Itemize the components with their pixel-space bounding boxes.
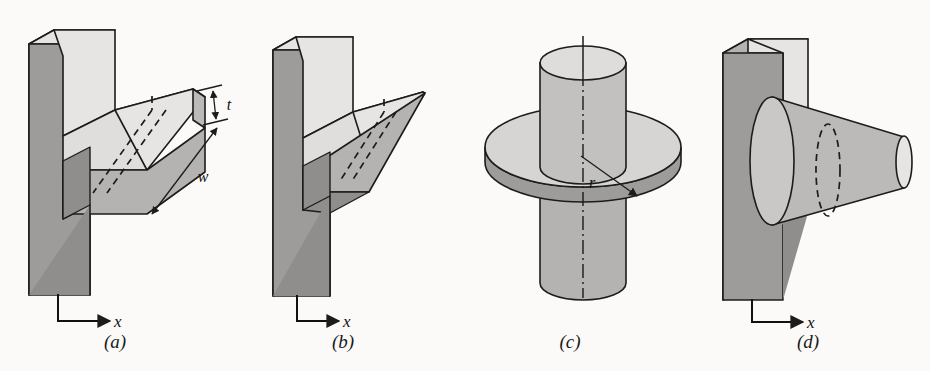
panel-d-conical-pin-fin: x (d) xyxy=(723,39,912,353)
panel-a-thickness-label: t xyxy=(227,96,232,113)
panel-b-x-axis xyxy=(297,295,334,321)
panel-c-radius-label: r xyxy=(589,174,596,191)
panel-a-t-tick-lower xyxy=(203,119,228,125)
panel-a-x-axis xyxy=(58,294,105,321)
panel-a-caption: (a) xyxy=(104,331,126,353)
panel-b-x-axis-label: x xyxy=(342,312,351,331)
panel-d-x-axis-label: x xyxy=(806,313,815,332)
panel-d-cone-tip-face xyxy=(896,136,912,188)
panel-d-x-axis xyxy=(752,299,798,322)
fin-configurations-figure: t w x (a) xyxy=(0,0,930,371)
panel-d-caption: (d) xyxy=(797,331,819,353)
panel-a-width-label: w xyxy=(198,168,209,185)
panel-d-cone-base-ellipse xyxy=(750,97,794,225)
panel-a-fin-end-face xyxy=(193,89,205,128)
panel-a-t-dimension-line xyxy=(213,91,216,119)
panel-b-straight-triangular-fin: x (b) xyxy=(273,37,425,353)
panel-c-caption: (c) xyxy=(559,331,580,353)
panel-a-t-tick-upper xyxy=(197,85,222,91)
panel-a-x-axis-label: x xyxy=(113,312,122,331)
panel-a-straight-rectangular-fin: t w x (a) xyxy=(29,30,232,353)
panel-b-caption: (b) xyxy=(332,331,354,353)
panel-c-annular-fin: r (c) xyxy=(485,36,681,353)
